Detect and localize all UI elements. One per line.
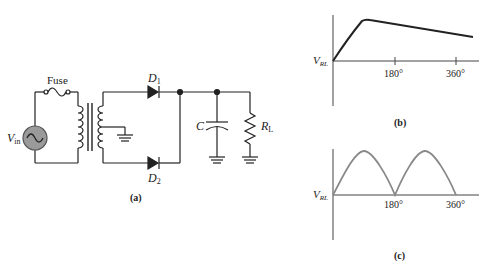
ground-icon (242, 157, 258, 163)
resistor-label: RL (260, 119, 273, 134)
fuse-icon (44, 88, 70, 96)
filtered-waveform (333, 20, 473, 61)
panel-label-a: (a) (130, 192, 142, 204)
ground-icon (209, 157, 225, 163)
full-wave-rectifier-circuit (35, 86, 258, 169)
panel-label-b: (b) (394, 117, 406, 129)
d2-label: D2 (147, 171, 161, 186)
tick-label-180: 180° (384, 68, 403, 79)
chart-b-filtered-output: 180° 360° VRL (b) (313, 15, 479, 129)
junction-dot (178, 90, 183, 95)
chart-c-rectified-output: 180° 360° VRL (c) (313, 149, 479, 262)
ground-icon (117, 135, 133, 141)
diode-d1-icon (148, 86, 159, 98)
resistor-icon (245, 113, 255, 144)
diode-d2-icon (148, 157, 159, 169)
vin-label: Vin (7, 131, 21, 146)
full-wave-rectified-waveform (333, 151, 456, 195)
y-label-vrl: VRL (313, 188, 328, 202)
capacitor-label: C (196, 119, 205, 133)
d1-label: D1 (147, 71, 161, 86)
secondary-coil-icon (98, 106, 103, 148)
tick-label-180: 180° (384, 199, 403, 210)
primary-coil-icon (78, 106, 83, 148)
panel-label-c: (c) (394, 250, 405, 262)
tick-label-360: 360° (446, 199, 465, 210)
fuse-label: Fuse (47, 74, 68, 86)
y-label-vrl: VRL (313, 54, 328, 68)
tick-label-360: 360° (446, 68, 465, 79)
ac-source-icon (23, 126, 47, 150)
figure-canvas: Fuse Vin D1 D2 C RL (a) 180° 360° VRL (b… (0, 0, 490, 269)
